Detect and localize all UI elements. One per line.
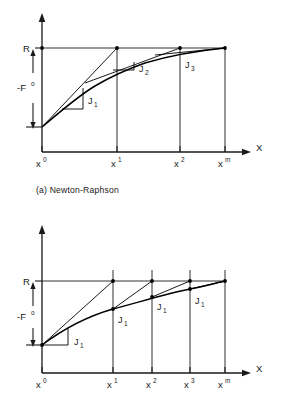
jacobian-label-2: J 1 bbox=[118, 315, 128, 327]
x-tick-2-sup: 2 bbox=[153, 377, 157, 384]
x-tick-0-base: x bbox=[36, 379, 41, 390]
jacobian-1-sub: 1 bbox=[94, 101, 98, 108]
x-tick-label-m: x m bbox=[218, 377, 230, 390]
jacobian-b2-sub: 1 bbox=[124, 320, 128, 327]
figure-root: R -F o x 0 x 1 x 2 bbox=[0, 0, 292, 419]
iteration-line-3 bbox=[152, 281, 190, 297]
x-tick-marks bbox=[42, 146, 225, 152]
jacobian-label-1: J 1 bbox=[74, 337, 84, 349]
x-axis-label: X bbox=[256, 142, 263, 153]
x-tick-m-sup: m bbox=[225, 156, 230, 163]
x-axis bbox=[42, 149, 251, 156]
x-tick-label-0: x 0 bbox=[36, 377, 47, 390]
x-tick-label-2: x 2 bbox=[146, 377, 157, 390]
jacobian-2-base: J bbox=[139, 64, 144, 74]
chart-newton-raphson: R -F o x 0 x 1 x 2 bbox=[0, 0, 292, 210]
jacobian-b1-base: J bbox=[74, 337, 79, 347]
dimension-arrow-F bbox=[26, 49, 42, 129]
x-tick-1-base: x bbox=[107, 379, 112, 390]
y-level-label: R bbox=[23, 43, 30, 54]
slope-triangle-1 bbox=[62, 88, 83, 109]
jacobian-label-3: J 1 bbox=[157, 302, 167, 314]
x-tick-2-base: x bbox=[174, 158, 179, 169]
jacobian-b4-sub: 1 bbox=[201, 301, 205, 308]
x-tick-0-sup: 0 bbox=[43, 377, 47, 384]
jacobian-b2-base: J bbox=[118, 315, 123, 325]
jacobian-b3-sub: 1 bbox=[163, 307, 167, 314]
iteration-line-4 bbox=[190, 281, 225, 289]
jacobian-label-1: J 1 bbox=[88, 96, 98, 108]
x-tick-m-base: x bbox=[218, 379, 223, 390]
panel-a-caption: (a) Newton-Raphson bbox=[36, 185, 119, 195]
x-tick-0-base: x bbox=[36, 158, 41, 169]
x-tick-label-1: x 1 bbox=[107, 377, 118, 390]
x-tick-m-base: x bbox=[218, 158, 223, 169]
y-span-label: -F bbox=[17, 311, 26, 322]
x-tick-1-base: x bbox=[111, 158, 116, 169]
x-tick-label-1: x 1 bbox=[111, 156, 122, 169]
chart-modified-newton: R -F o x 0 x 1 x 2 bbox=[0, 210, 292, 419]
x-tick-3-base: x bbox=[184, 379, 189, 390]
x-tick-label-0: x 0 bbox=[36, 156, 47, 169]
jacobian-b1-sub: 1 bbox=[80, 342, 84, 349]
jacobian-1-base: J bbox=[88, 96, 93, 106]
x-tick-label-2: x 2 bbox=[174, 156, 185, 169]
x-tick-marks bbox=[42, 367, 225, 373]
y-span-label-sup: o bbox=[31, 309, 35, 316]
iteration-line-2 bbox=[85, 48, 180, 83]
y-span-label-sup: o bbox=[31, 80, 35, 87]
iteration-line-1 bbox=[42, 48, 117, 127]
jacobian-2-sub: 2 bbox=[145, 69, 149, 76]
x-tick-1-sup: 1 bbox=[114, 377, 118, 384]
iteration-line-3 bbox=[155, 48, 225, 55]
x-tick-label-m: x m bbox=[218, 156, 230, 169]
x-axis-label: X bbox=[256, 363, 263, 374]
y-span-label: -F bbox=[17, 82, 26, 93]
x-tick-3-sup: 3 bbox=[191, 377, 195, 384]
x-tick-2-base: x bbox=[146, 379, 151, 390]
jacobian-b4-base: J bbox=[195, 296, 200, 306]
y-level-label: R bbox=[23, 276, 30, 287]
jacobian-3-sub: 3 bbox=[191, 65, 195, 72]
x-tick-m-sup: m bbox=[225, 377, 230, 384]
y-axis bbox=[39, 13, 46, 152]
jacobian-3-base: J bbox=[185, 60, 190, 70]
jacobian-b3-base: J bbox=[157, 302, 162, 312]
x-tick-1-sup: 1 bbox=[118, 156, 122, 163]
jacobian-label-3: J 3 bbox=[185, 60, 195, 72]
response-curve bbox=[42, 48, 225, 127]
x-tick-label-3: x 3 bbox=[184, 377, 195, 390]
jacobian-label-2: J 2 bbox=[139, 64, 149, 76]
y-axis bbox=[39, 225, 46, 373]
x-axis bbox=[42, 370, 251, 377]
iteration-line-2 bbox=[113, 281, 152, 309]
x-tick-2-sup: 2 bbox=[181, 156, 185, 163]
x-tick-0-sup: 0 bbox=[43, 156, 47, 163]
response-curve bbox=[42, 281, 225, 345]
node-dots-curve bbox=[40, 287, 192, 347]
jacobian-label-4: J 1 bbox=[195, 296, 205, 308]
